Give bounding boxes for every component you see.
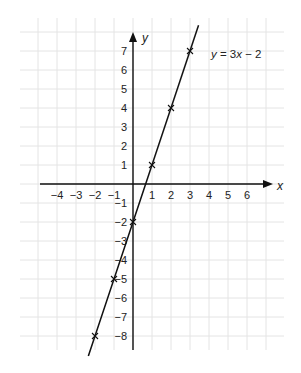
- linear-graph: −4−3−2−1123456 7654321−1−2−3−4−5−6−7−8 x…: [0, 0, 301, 373]
- y-tick-label: −1: [114, 197, 127, 209]
- x-tick-label: 2: [168, 189, 174, 201]
- y-tick-label: 2: [121, 140, 127, 152]
- y-axis-label: y: [141, 31, 149, 45]
- x-tick-label: −3: [70, 189, 83, 201]
- equation-mid: = 3: [217, 48, 237, 60]
- y-tick-label: 4: [121, 102, 127, 114]
- y-tick-label: 1: [121, 159, 127, 171]
- y-tick-label: −7: [114, 311, 127, 323]
- x-tick-label: −4: [51, 189, 64, 201]
- equation-label: y = 3x − 2: [210, 48, 262, 60]
- y-tick-label: 6: [121, 64, 127, 76]
- y-axis-arrow-icon: [129, 32, 137, 42]
- y-tick-label: −8: [114, 330, 127, 342]
- line-y-equals-3x-minus-2: [88, 25, 198, 356]
- plot-line: [88, 25, 198, 356]
- x-tick-label: 1: [149, 189, 155, 201]
- x-tick-label: 6: [244, 189, 250, 201]
- x-tick-label: −2: [89, 189, 102, 201]
- x-axis-label: x: [276, 179, 284, 193]
- x-axis-arrow-icon: [263, 180, 273, 188]
- y-tick-label: 7: [121, 45, 127, 57]
- x-tick-labels: −4−3−2−1123456: [51, 189, 250, 201]
- equation-tail: − 2: [242, 48, 262, 60]
- y-tick-label: −2: [114, 216, 127, 228]
- x-tick-label: 5: [225, 189, 231, 201]
- x-tick-label: 4: [206, 189, 212, 201]
- y-tick-label: 5: [121, 83, 127, 95]
- y-tick-label: −5: [114, 273, 127, 285]
- y-tick-label: −6: [114, 292, 127, 304]
- x-tick-label: 3: [187, 189, 193, 201]
- y-tick-label: 3: [121, 121, 127, 133]
